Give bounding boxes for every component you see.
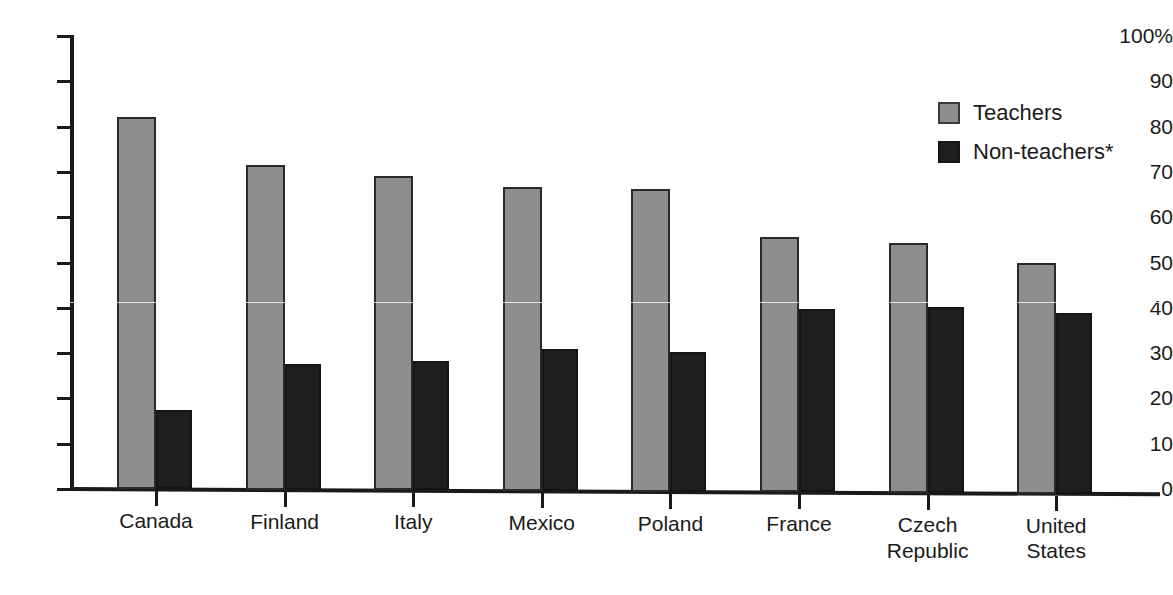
bar-teachers-canada (117, 117, 156, 490)
y-tick-50 (57, 262, 74, 265)
x-tick-poland (669, 494, 672, 509)
y-tick-label-60: 60 (1117, 205, 1173, 229)
x-axis-line (70, 487, 1160, 496)
scan-artifact-line (70, 302, 1160, 303)
bar-non-teachers-finland (285, 364, 321, 490)
y-tick-30 (57, 352, 74, 355)
x-tick-canada (155, 491, 158, 506)
x-label-line: Canada (119, 508, 193, 534)
y-tick-label-30: 30 (1117, 341, 1173, 365)
x-axis-label-poland: Poland (638, 511, 703, 537)
x-tick-italy (412, 492, 415, 507)
y-tick-100 (57, 35, 74, 38)
x-label-line: France (766, 511, 831, 537)
bar-teachers-france (760, 237, 799, 492)
legend-label-non-teachers: Non-teachers* (973, 139, 1114, 165)
chart-container: 100%9080706050403020100 CanadaFinlandIta… (0, 0, 1173, 595)
x-axis-label-canada: Canada (119, 508, 193, 534)
bar-non-teachers-united-states (1056, 313, 1092, 493)
y-tick-label-40: 40 (1117, 296, 1173, 320)
x-tick-finland (284, 492, 287, 507)
bar-teachers-italy (374, 176, 413, 491)
y-tick-10 (57, 443, 74, 446)
legend-item-teachers: Teachers (938, 96, 1114, 130)
y-tick-label-90: 90 (1117, 69, 1173, 93)
bar-non-teachers-czech-republic (928, 307, 964, 493)
x-tick-united-states (1055, 496, 1058, 511)
x-tick-mexico (541, 493, 544, 508)
x-label-line: Italy (394, 509, 433, 535)
y-tick-label-0: 0 (1117, 477, 1173, 501)
x-label-line: Finland (250, 509, 319, 535)
x-label-line: States (1026, 538, 1087, 564)
y-tick-60 (57, 216, 74, 219)
y-tick-label-70: 70 (1117, 160, 1173, 184)
legend-swatch-non-teachers-icon (938, 141, 960, 163)
x-label-line: Republic (887, 538, 969, 564)
bar-teachers-poland (631, 189, 670, 492)
bar-teachers-united-states (1017, 263, 1056, 494)
bar-non-teachers-poland (670, 352, 706, 492)
y-tick-label-10: 10 (1117, 432, 1173, 456)
x-tick-czech-republic (927, 495, 930, 510)
legend-item-non-teachers: Non-teachers* (938, 135, 1114, 169)
bar-teachers-mexico (503, 187, 542, 491)
x-label-line: Mexico (509, 510, 576, 536)
legend-swatch-teachers-icon (938, 102, 960, 124)
legend-label-teachers: Teachers (973, 100, 1062, 126)
y-tick-label-80: 80 (1117, 115, 1173, 139)
x-axis-label-united-states: UnitedStates (1026, 513, 1087, 564)
y-tick-label-50: 50 (1117, 251, 1173, 275)
y-tick-20 (57, 397, 74, 400)
bar-non-teachers-mexico (542, 349, 578, 491)
plot-area: 100%9080706050403020100 CanadaFinlandIta… (0, 0, 1173, 595)
legend: Teachers Non-teachers* (938, 96, 1114, 174)
x-axis-label-mexico: Mexico (509, 510, 576, 536)
bar-non-teachers-italy (413, 361, 449, 490)
x-tick-france (798, 494, 801, 509)
x-axis-label-italy: Italy (394, 509, 433, 535)
x-label-line: Poland (638, 511, 703, 537)
bar-teachers-czech-republic (889, 243, 928, 493)
x-axis-label-czech-republic: CzechRepublic (887, 512, 969, 563)
y-tick-40 (57, 307, 74, 310)
x-label-line: Czech (887, 512, 969, 538)
y-tick-label-100: 100% (1117, 24, 1173, 48)
x-label-line: United (1026, 513, 1087, 539)
x-axis-label-france: France (766, 511, 831, 537)
y-tick-0 (57, 488, 74, 491)
bar-non-teachers-france (799, 309, 835, 493)
y-tick-70 (57, 171, 74, 174)
bar-teachers-finland (246, 165, 285, 490)
y-tick-90 (57, 80, 74, 83)
bar-non-teachers-canada (156, 410, 192, 490)
x-axis-label-finland: Finland (250, 509, 319, 535)
y-tick-80 (57, 126, 74, 129)
y-tick-label-20: 20 (1117, 386, 1173, 410)
